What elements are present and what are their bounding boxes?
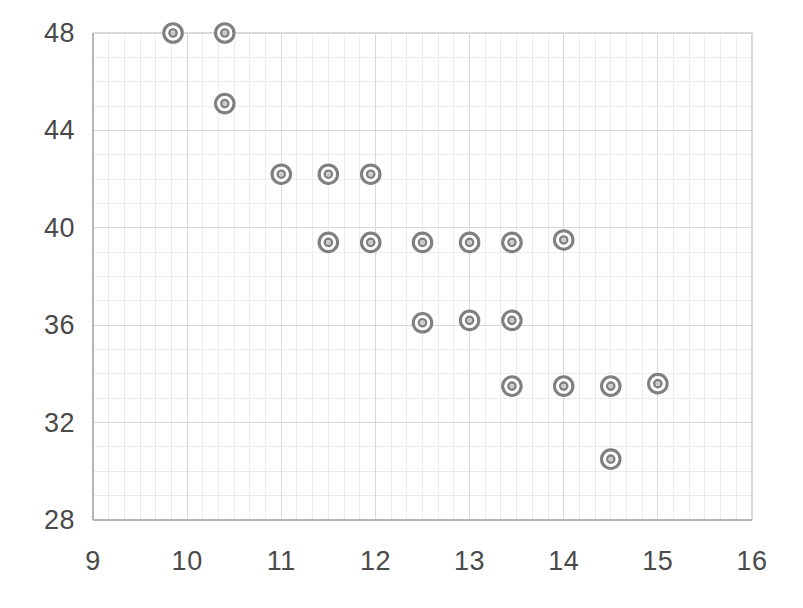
x-axis-tick-label: 12	[360, 548, 391, 575]
data-point	[503, 311, 521, 329]
x-axis-tick-label: 15	[642, 548, 673, 575]
data-point	[362, 165, 380, 183]
data-point	[649, 374, 667, 392]
scatter-chart: 283236404448 910111213141516	[0, 0, 803, 608]
y-axis-tick-label: 36	[44, 312, 75, 339]
data-point	[413, 314, 431, 332]
data-point	[460, 233, 478, 251]
x-axis-tick-label: 9	[85, 548, 101, 575]
plot-canvas	[0, 0, 803, 608]
data-point	[362, 233, 380, 251]
x-axis-tick-label: 10	[172, 548, 203, 575]
x-axis-tick-label: 13	[454, 548, 485, 575]
y-axis-tick-label: 28	[44, 507, 75, 534]
x-axis-tick-label: 16	[736, 548, 767, 575]
data-point	[602, 450, 620, 468]
data-point-group	[164, 24, 667, 469]
data-point	[602, 377, 620, 395]
data-point	[503, 377, 521, 395]
data-point	[319, 165, 337, 183]
data-point	[413, 233, 431, 251]
data-point	[503, 233, 521, 251]
data-point	[216, 94, 234, 112]
data-point	[216, 24, 234, 42]
y-axis-tick-label: 44	[44, 117, 75, 144]
x-axis-tick-label: 11	[267, 548, 296, 575]
data-point	[164, 24, 182, 42]
data-point	[555, 231, 573, 249]
data-point	[460, 311, 478, 329]
x-axis-tick-label: 14	[548, 548, 579, 575]
y-axis-tick-label: 48	[44, 20, 75, 47]
y-axis-tick-label: 40	[44, 214, 75, 241]
data-point	[272, 165, 290, 183]
data-point	[555, 377, 573, 395]
y-axis-tick-label: 32	[44, 409, 75, 436]
data-point	[319, 233, 337, 251]
